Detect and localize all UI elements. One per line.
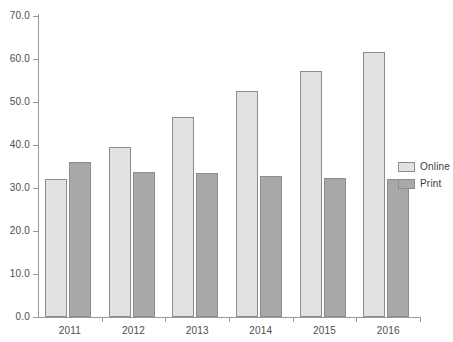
bar-online-2016 xyxy=(363,52,385,317)
y-tick-label: 70.0 xyxy=(0,11,30,21)
bar-print-2016 xyxy=(387,179,409,317)
y-tick-mark xyxy=(33,102,38,103)
x-tick-label: 2016 xyxy=(358,325,418,336)
y-tick-mark xyxy=(33,188,38,189)
x-tick-mark xyxy=(229,317,230,322)
x-tick-label: 2012 xyxy=(104,325,164,336)
legend-item-online[interactable]: Online xyxy=(398,160,450,174)
y-tick-label: 10.0 xyxy=(0,269,30,279)
bar-online-2014 xyxy=(236,91,258,317)
bar-online-2015 xyxy=(300,71,322,317)
bar-print-2012 xyxy=(133,172,155,317)
y-tick-mark xyxy=(33,59,38,60)
legend-label: Online xyxy=(420,162,450,172)
y-tick-mark xyxy=(33,231,38,232)
x-tick-mark xyxy=(356,317,357,322)
y-tick-mark xyxy=(33,317,38,318)
x-tick-mark xyxy=(165,317,166,322)
y-tick-label: 50.0 xyxy=(0,97,30,107)
x-tick-mark xyxy=(420,317,421,322)
legend: OnlinePrint xyxy=(398,160,450,194)
x-tick-mark xyxy=(293,317,294,322)
x-tick-label: 2011 xyxy=(40,325,100,336)
y-tick-mark xyxy=(33,274,38,275)
y-tick-label: 20.0 xyxy=(0,226,30,236)
bar-print-2014 xyxy=(260,176,282,317)
bar-print-2015 xyxy=(324,178,346,317)
y-tick-label: 40.0 xyxy=(0,140,30,150)
bar-print-2011 xyxy=(69,162,91,317)
legend-swatch-icon xyxy=(398,179,415,189)
y-tick-label: 30.0 xyxy=(0,183,30,193)
x-tick-label: 2015 xyxy=(295,325,355,336)
x-tick-mark xyxy=(102,317,103,322)
y-axis-line xyxy=(38,14,39,318)
y-tick-mark xyxy=(33,16,38,17)
bar-chart: 0.010.020.030.040.050.060.070.0 20112012… xyxy=(0,0,453,342)
bar-online-2011 xyxy=(45,179,67,317)
bar-print-2013 xyxy=(196,173,218,317)
legend-item-print[interactable]: Print xyxy=(398,177,450,191)
bar-online-2012 xyxy=(109,147,131,317)
y-tick-mark xyxy=(33,145,38,146)
legend-label: Print xyxy=(420,179,442,189)
y-tick-label: 60.0 xyxy=(0,54,30,64)
legend-swatch-icon xyxy=(398,162,415,172)
x-tick-label: 2014 xyxy=(231,325,291,336)
y-tick-label: 0.0 xyxy=(0,312,30,322)
x-tick-label: 2013 xyxy=(167,325,227,336)
bar-online-2013 xyxy=(172,117,194,317)
